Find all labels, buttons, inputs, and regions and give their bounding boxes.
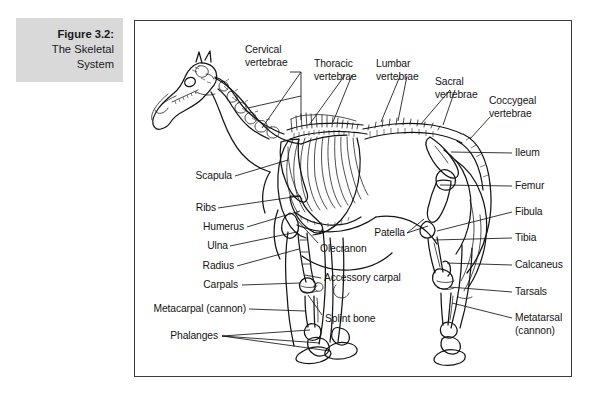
neck-chest-contour: [211, 92, 270, 213]
label-ulna: Ulna: [100, 240, 228, 253]
label-olecranon: Olecranon: [320, 243, 367, 256]
label-metacarpal-cannon: Metacarpal (cannon): [136, 303, 246, 316]
label-radius: Radius: [106, 260, 234, 273]
label-femur: Femur: [515, 180, 544, 193]
label-humerus: Humerus: [116, 221, 244, 234]
lumbar-sacral-vertebrae: [363, 118, 462, 143]
skull: [152, 51, 217, 129]
label-patella: Patella: [345, 227, 405, 240]
abdomen-line: [302, 253, 392, 270]
label-splint-bone: Splint bone: [325, 313, 375, 326]
label-phalanges: Phalanges: [90, 330, 218, 343]
label-carpals: Carpals: [110, 279, 238, 292]
label-sacral-vertebrae: Sacral vertebrae: [435, 76, 478, 101]
leader-lines: [218, 72, 512, 351]
label-tarsals: Tarsals: [515, 286, 547, 299]
label-metatarsal-cannon: Metatarsal (cannon): [515, 312, 562, 337]
label-scapula: Scapula: [104, 170, 232, 183]
label-calcaneus: Calcaneus: [515, 259, 563, 272]
label-fibula: Fibula: [515, 206, 542, 219]
label-coccygeal-vertebrae: Coccygeal vertebrae: [489, 95, 536, 120]
label-ileum: Ileum: [515, 147, 540, 160]
label-ribs: Ribs: [88, 202, 216, 215]
thoracic-vertebrae: [287, 113, 367, 139]
rib-cage: [278, 137, 368, 238]
label-lumbar-vertebrae: Lumbar vertebrae: [376, 58, 419, 83]
label-thoracic-vertebrae: Thoracic vertebrae: [314, 58, 357, 83]
far-foreleg: [325, 238, 357, 359]
label-tibia: Tibia: [515, 232, 536, 245]
label-accessory-carpal: Accessory carpal: [324, 272, 401, 285]
label-cervical-vertebrae: Cervical vertebrae: [245, 44, 288, 69]
figure-root: Figure 3.2: The Skeletal System .o{fill:…: [0, 0, 595, 393]
